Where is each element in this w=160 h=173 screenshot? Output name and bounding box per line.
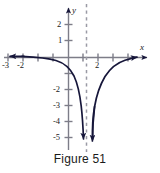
right-branch-down-tail: [92, 107, 94, 142]
graph-plot: [0, 0, 160, 155]
x-tick-label-2: 2: [95, 60, 99, 70]
x-tick-label-neg2: -2: [17, 60, 24, 70]
x-axis-label: x: [140, 42, 144, 52]
y-tick-label-neg4: -4: [53, 116, 60, 126]
x-tick-label-neg3: -3: [2, 60, 9, 70]
y-tick-label-1: 1: [58, 35, 62, 45]
figure-container: y x -3 -2 2 2 1 -2 -3 -4 -5 Figure 51: [0, 0, 160, 173]
figure-caption: Figure 51: [0, 152, 160, 166]
y-tick-label-2: 2: [57, 19, 61, 29]
y-tick-label-neg2: -2: [53, 84, 60, 94]
y-axis-label: y: [72, 5, 76, 15]
y-tick-label-neg5: -5: [53, 132, 60, 142]
y-axis: [65, 8, 73, 150]
y-tick-label-neg3: -3: [53, 100, 60, 110]
left-branch-path: [22, 56, 84, 139]
